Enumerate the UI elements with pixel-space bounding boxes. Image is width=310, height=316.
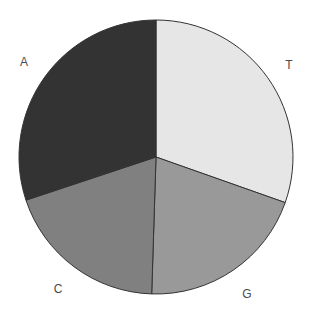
pie-chart: TGCA <box>0 0 310 316</box>
slice-label-t: T <box>285 58 293 72</box>
slice-label-c: C <box>54 282 63 296</box>
slice-label-a: A <box>20 55 28 69</box>
pie-slices <box>19 20 293 294</box>
slice-label-g: G <box>242 287 251 301</box>
pie-chart-svg: TGCA <box>0 0 310 316</box>
